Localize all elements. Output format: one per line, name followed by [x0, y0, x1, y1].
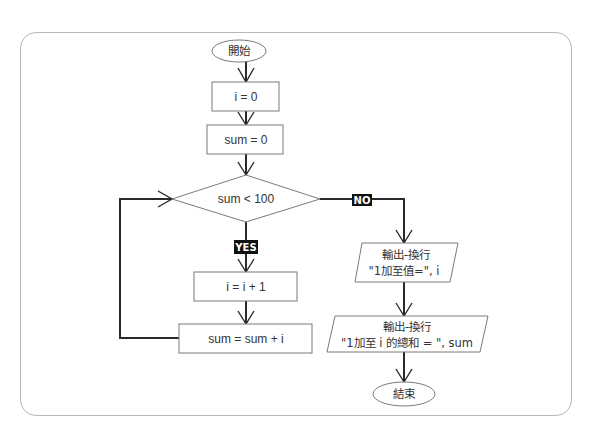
node-condition: sum < 100 — [172, 175, 320, 222]
node-end: 結束 — [373, 382, 435, 406]
node-output-i-line2: "1加至值=", i — [368, 264, 439, 278]
node-init-i: i = 0 — [212, 82, 279, 111]
node-init-sum-label: sum = 0 — [224, 133, 267, 147]
node-start-label: 開始 — [228, 44, 251, 58]
node-accumulate-label: sum = sum + i — [208, 332, 283, 346]
flowchart-canvas: 開始 i = 0 sum = 0 sum < 100 YES NO i = i … — [0, 0, 596, 443]
node-accumulate: sum = sum + i — [179, 324, 312, 353]
branch-no-label: NO — [354, 195, 371, 206]
branch-no-tag: NO — [352, 194, 372, 206]
node-output-sum-line2: "1加至 i 的總和 = ", sum — [341, 336, 473, 350]
node-output-sum: 輸出-換行 "1加至 i 的總和 = ", sum — [327, 316, 488, 352]
node-output-sum-line1: 輸出-換行 — [383, 320, 431, 334]
branch-yes-label: YES — [234, 242, 256, 253]
node-output-i: 輸出-換行 "1加至值=", i — [355, 243, 458, 282]
node-increment-i-label: i = i + 1 — [226, 280, 266, 294]
edge-loop-back — [120, 199, 179, 338]
node-increment-i: i = i + 1 — [194, 272, 297, 301]
node-start: 開始 — [212, 40, 266, 62]
node-condition-label: sum < 100 — [218, 192, 275, 206]
node-init-sum: sum = 0 — [207, 125, 283, 154]
node-end-label: 結束 — [393, 387, 416, 401]
node-init-i-label: i = 0 — [234, 90, 257, 104]
node-output-i-line1: 輸出-換行 — [382, 248, 430, 262]
branch-yes-tag: YES — [234, 240, 258, 254]
